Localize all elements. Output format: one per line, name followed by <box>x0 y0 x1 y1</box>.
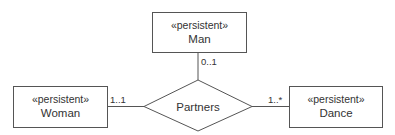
dance-class-name: Dance <box>319 106 352 121</box>
dance-stereotype: «persistent» <box>307 93 364 106</box>
woman-class-name: Woman <box>41 106 80 121</box>
woman-stereotype: «persistent» <box>32 93 89 106</box>
class-dance[interactable]: «persistent» Dance <box>289 86 383 128</box>
class-woman[interactable]: «persistent» Woman <box>13 86 108 128</box>
woman-multiplicity: 1..1 <box>110 94 126 105</box>
diagram-canvas: «persistent» Man «persistent» Woman «per… <box>0 0 395 135</box>
association-label: Partners <box>176 101 219 113</box>
man-multiplicity: 0..1 <box>201 56 217 67</box>
man-stereotype: «persistent» <box>171 19 228 32</box>
dance-multiplicity: 1..* <box>268 94 282 105</box>
man-class-name: Man <box>188 32 210 47</box>
class-man[interactable]: «persistent» Man <box>152 12 247 53</box>
